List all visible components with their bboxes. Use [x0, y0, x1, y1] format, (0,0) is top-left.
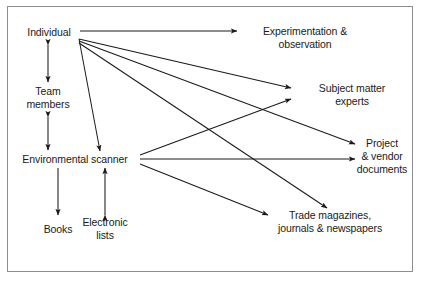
- node-label-subject_matter: Subject matter experts: [319, 82, 385, 108]
- node-label-books: Books: [44, 223, 73, 236]
- node-label-team_members: Team members: [26, 85, 69, 111]
- edge-env-scanner-to-subject-matter: [140, 99, 291, 155]
- edge-project-vendor-to-individual: [79, 41, 355, 144]
- diagram-figure: IndividualTeam membersEnvironmental scan…: [0, 0, 423, 284]
- node-label-individual: Individual: [27, 26, 70, 39]
- node-label-project_vendor: Project & vendor documents: [357, 137, 407, 176]
- node-label-trade_mags: Trade magazines, journals & newspapers: [278, 209, 382, 235]
- node-label-experimentation: Experimentation & observation: [263, 25, 347, 51]
- edge-env-scanner-to-trade-mags: [140, 164, 268, 215]
- node-label-electronic: Electronic lists: [82, 216, 127, 242]
- node-label-env_scanner: Environmental scanner: [22, 153, 127, 166]
- edge-individual-to-env-scanner: [79, 39, 100, 151]
